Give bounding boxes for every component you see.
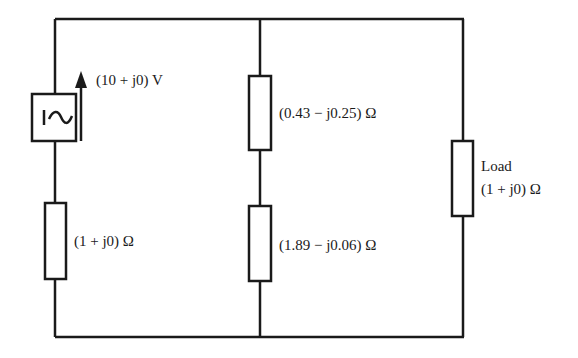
middle-upper-resistor-label: (0.43 − j0.25) Ω (279, 104, 377, 122)
load-resistor (452, 141, 473, 216)
left-resistor (45, 203, 66, 279)
middle-upper-resistor (249, 76, 271, 150)
left-resistor-label: (1 + j0) Ω (74, 232, 134, 250)
source-voltage-label: (10 + j0) V (96, 71, 163, 89)
middle-lower-resistor (249, 206, 271, 281)
load-title-label: Load (481, 157, 512, 175)
ac-source-box (32, 94, 76, 141)
circuit-diagram (0, 0, 578, 358)
middle-lower-resistor-label: (1.89 − j0.06) Ω (279, 236, 377, 254)
load-value-label: (1 + j0) Ω (481, 180, 541, 198)
